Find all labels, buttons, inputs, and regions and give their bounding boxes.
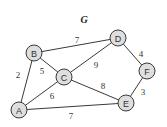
edge-c-d [64, 38, 118, 77]
edge-a-b [19, 53, 34, 110]
node-label: F [144, 67, 150, 77]
edge-weight-b-d: 7 [75, 35, 80, 45]
edge-weight-a-b: 2 [16, 70, 21, 80]
node-c: C [56, 69, 72, 85]
edge-weight-a-e: 7 [69, 111, 74, 121]
node-a: A [11, 102, 27, 118]
edge-weight-a-c: 6 [50, 91, 55, 101]
edge-weight-b-c: 5 [40, 66, 45, 76]
edge-weight-d-f: 4 [139, 49, 144, 59]
node-label: E [123, 99, 129, 109]
node-f: F [139, 63, 155, 79]
edge-c-e [64, 77, 126, 103]
node-label: C [61, 73, 68, 83]
edge-weight-c-d: 9 [94, 60, 99, 70]
node-e: E [118, 95, 134, 111]
edge-weight-e-f: 3 [141, 87, 146, 97]
edge-a-e [19, 103, 126, 110]
node-label: A [16, 106, 22, 116]
graph-diagram: G 257698743 ABCDEF [0, 0, 167, 127]
nodes-layer: ABCDEF [11, 30, 155, 118]
graph-title: G [80, 14, 88, 25]
edge-weight-c-e: 8 [101, 81, 106, 91]
node-label: B [31, 49, 37, 59]
node-label: D [115, 34, 122, 44]
node-d: D [110, 30, 126, 46]
node-b: B [26, 45, 42, 61]
